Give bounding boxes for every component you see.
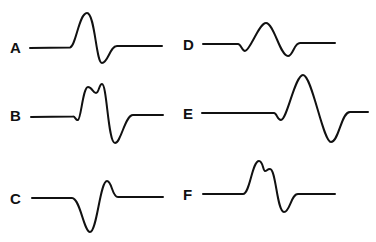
waveform-figure: A B C D E F <box>0 0 376 242</box>
waveform-a <box>30 13 162 63</box>
waveform-d <box>203 23 335 56</box>
waveform-e <box>202 75 368 142</box>
waveform-b <box>31 84 163 143</box>
waveform-traces <box>0 0 376 242</box>
waveform-c <box>32 181 163 232</box>
waveform-f <box>203 161 335 212</box>
